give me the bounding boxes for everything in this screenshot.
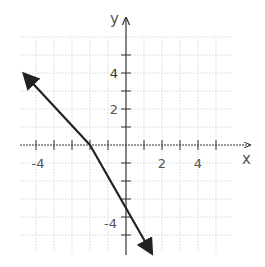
x-tick-label-4: 4: [194, 156, 202, 171]
x-tick-label-2: 2: [158, 156, 166, 171]
graphed-line-segment-a: [25, 75, 90, 109]
line-to-upper-left: [25, 75, 90, 145]
coordinate-plane: y x -4 2 4 4 2 -4: [0, 0, 265, 267]
y-tick-label-4: 4: [110, 66, 118, 81]
y-axis-label: y: [110, 10, 119, 28]
x-tick-label-neg4: -4: [32, 156, 45, 171]
line-to-lower-right: [90, 145, 151, 252]
y-tick-label-neg4: -4: [104, 216, 117, 231]
x-axis-label: x: [242, 150, 251, 168]
graphed-line: [24, 73, 100, 110]
axes: [20, 18, 250, 255]
y-tick-label-2: 2: [110, 102, 118, 117]
plotted-line: [25, 10, 88, 94]
